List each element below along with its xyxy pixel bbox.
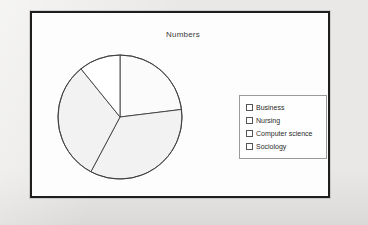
pie-slice-group (58, 55, 182, 179)
legend-item-label: Nursing (256, 117, 280, 124)
slide-frame: Numbers Business Nursing Computer scienc… (30, 11, 330, 198)
page-title: Numbers (32, 30, 328, 39)
legend-item-label: Computer science (256, 130, 312, 137)
pie-chart-svg (52, 49, 188, 185)
legend-swatch-icon (246, 130, 253, 137)
pie-chart (52, 49, 188, 185)
legend-item-business[interactable]: Business (246, 101, 320, 114)
legend-item-label: Sociology (256, 143, 286, 150)
legend-item-nursing[interactable]: Nursing (246, 114, 320, 127)
legend-swatch-icon (246, 143, 253, 150)
chart-legend: Business Nursing Computer science Sociol… (239, 95, 327, 159)
legend-item-computer-science[interactable]: Computer science (246, 127, 320, 140)
page-background: Numbers Business Nursing Computer scienc… (0, 0, 368, 225)
legend-item-sociology[interactable]: Sociology (246, 140, 320, 153)
pie-slice[interactable] (120, 55, 182, 117)
legend-item-label: Business (256, 104, 284, 111)
legend-swatch-icon (246, 104, 253, 111)
legend-swatch-icon (246, 117, 253, 124)
